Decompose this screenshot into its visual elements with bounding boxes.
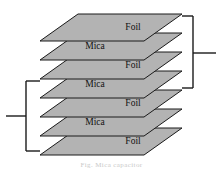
plate-label-foil-0: Foil xyxy=(125,22,141,32)
figure-root: FoilMicaFoilMicaFoilMicaFoil Fig. Mica c… xyxy=(0,0,223,169)
plate-label-mica-5: Mica xyxy=(85,117,105,127)
plate-label-foil-2: Foil xyxy=(125,60,141,70)
plate-label-foil-6: Foil xyxy=(125,136,141,146)
plate-label-mica-3: Mica xyxy=(85,79,105,89)
left-terminal xyxy=(6,81,40,151)
figure-caption: Fig. Mica capacitor xyxy=(0,161,223,169)
plate-label-foil-4: Foil xyxy=(125,98,141,108)
plates-group: FoilMicaFoilMicaFoilMicaFoil xyxy=(40,14,182,155)
plate-label-mica-1: Mica xyxy=(85,41,105,51)
capacitor-stack-diagram: FoilMicaFoilMicaFoilMicaFoil xyxy=(0,0,223,169)
right-terminal xyxy=(182,16,216,88)
